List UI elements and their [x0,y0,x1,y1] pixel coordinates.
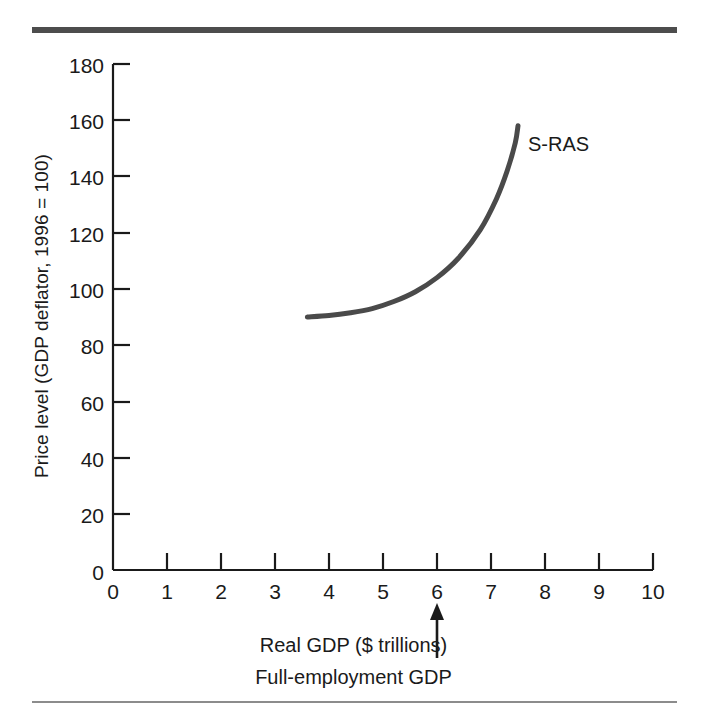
figure-container: Price level (GDP deflator, 1996 = 100) 1… [0,0,707,720]
sras-curve [307,126,518,317]
sras-series-label: S-RAS [528,133,589,156]
x-axis-caption: Real GDP ($ trillions) [0,634,707,657]
x-axis-ticks [167,553,653,570]
y-axis-ticks [113,64,130,514]
plot-area [0,0,707,720]
full-employment-gdp-caption: Full-employment GDP [0,666,707,689]
